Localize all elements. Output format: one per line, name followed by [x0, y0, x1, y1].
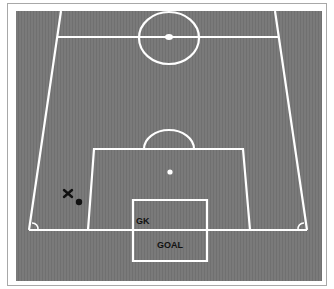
penalty-spot — [167, 169, 172, 174]
goalkeeper-label: GK — [136, 216, 150, 226]
soccer-pitch-diagram: GK GOAL — [0, 0, 334, 289]
goal-label: GOAL — [157, 240, 184, 250]
center-spot — [165, 34, 173, 40]
ball-marker — [76, 199, 82, 205]
